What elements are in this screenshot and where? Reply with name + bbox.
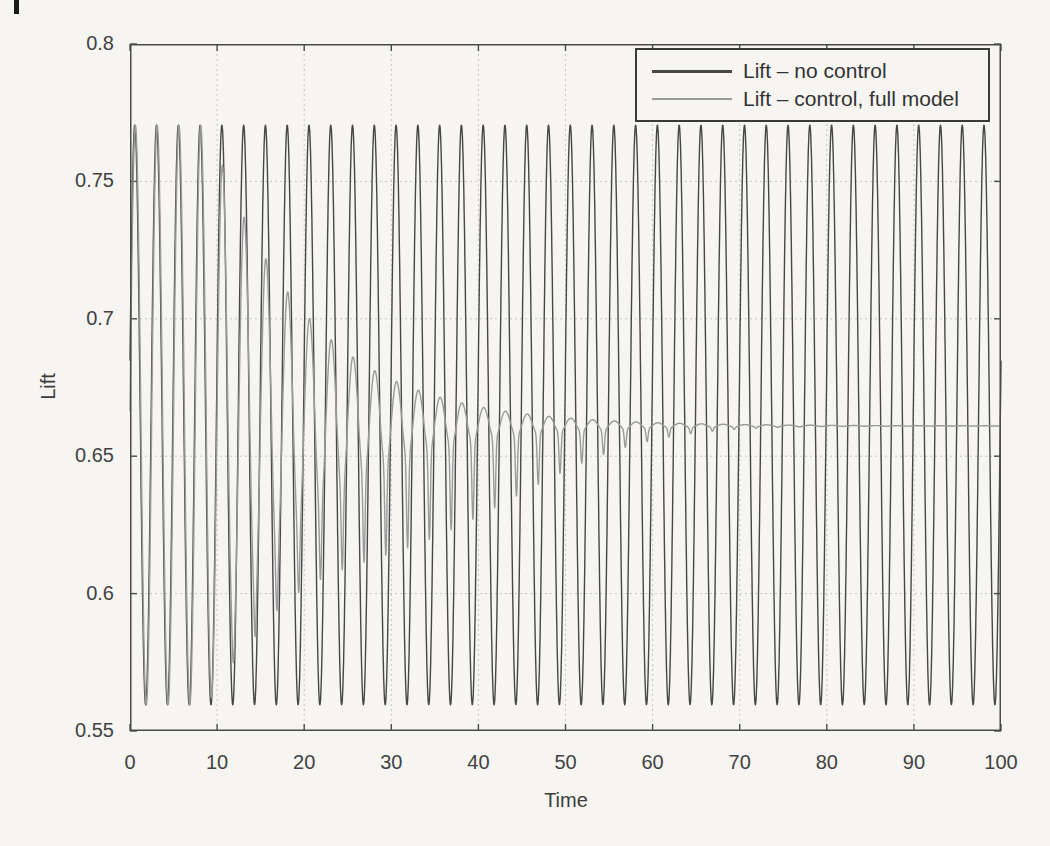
y-tick-label: 0.8 — [44, 32, 114, 55]
legend: Lift – no control Lift – control, full m… — [635, 48, 990, 122]
x-axis-label: Time — [506, 789, 626, 812]
figure-page: 0102030405060708090100 0.550.60.650.70.7… — [0, 0, 1050, 846]
y-tick-label: 0.7 — [44, 307, 114, 330]
x-tick-label: 70 — [708, 751, 772, 774]
legend-entry-no-control: Lift – no control — [652, 59, 973, 83]
legend-label-control-full-model: Lift – control, full model — [743, 87, 959, 111]
x-tick-label: 10 — [185, 751, 249, 774]
x-tick-label: 60 — [621, 751, 685, 774]
legend-label-no-control: Lift – no control — [743, 59, 887, 83]
x-tick-label: 100 — [969, 751, 1033, 774]
x-tick-label: 40 — [446, 751, 510, 774]
y-tick-label: 0.55 — [44, 719, 114, 742]
x-tick-label: 0 — [98, 751, 162, 774]
x-tick-label: 80 — [795, 751, 859, 774]
x-tick-label: 20 — [272, 751, 336, 774]
page-edge-mark — [14, 0, 19, 14]
plot-area — [130, 44, 1001, 731]
y-tick-label: 0.65 — [44, 444, 114, 467]
x-tick-label: 90 — [882, 751, 946, 774]
y-tick-label: 0.75 — [44, 169, 114, 192]
x-tick-label: 50 — [534, 751, 598, 774]
y-tick-label: 0.6 — [44, 582, 114, 605]
lift-vs-time-chart: 0102030405060708090100 0.550.60.650.70.7… — [130, 44, 1001, 731]
x-tick-label: 30 — [359, 751, 423, 774]
legend-entry-control-full-model: Lift – control, full model — [652, 87, 973, 111]
legend-line-sample-control-full-model — [652, 98, 732, 100]
y-axis-label: Lift — [37, 356, 60, 416]
legend-line-sample-no-control — [652, 70, 732, 73]
